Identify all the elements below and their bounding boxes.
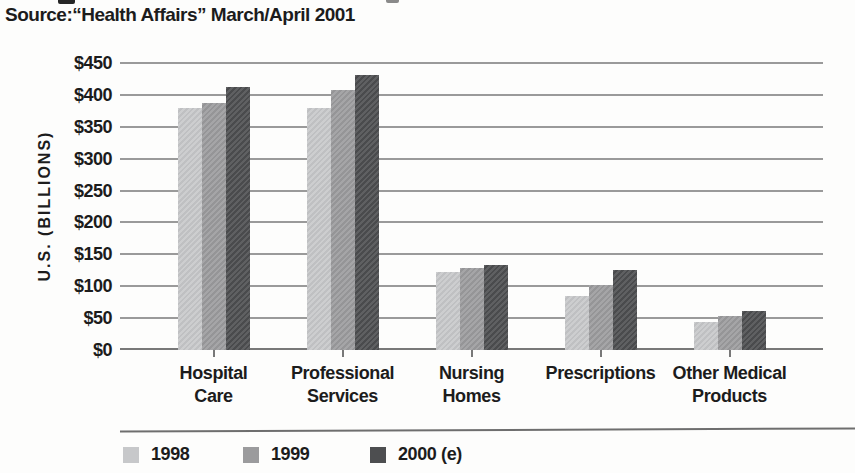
bar-1999-prescriptions bbox=[589, 285, 613, 350]
bar-1998-prescriptions bbox=[565, 296, 589, 350]
y-tick-label-200: $200 bbox=[30, 212, 112, 232]
x-tick bbox=[342, 350, 344, 357]
bar-group-nursing-homes bbox=[407, 63, 536, 350]
bar-2000e-other-medical-products bbox=[742, 311, 766, 351]
legend-label: 2000 (e) bbox=[398, 444, 462, 465]
x-tick-slot bbox=[407, 350, 536, 357]
bars-row bbox=[149, 63, 794, 350]
y-tick-label-250: $250 bbox=[30, 181, 112, 201]
cropped-title-fragment-2 bbox=[386, 0, 399, 3]
y-tick-label-400: $400 bbox=[30, 85, 112, 105]
y-tick-label-150: $150 bbox=[30, 244, 112, 264]
source-caption: Source:“Health Affairs” March/April 2001 bbox=[5, 4, 355, 26]
legend-item-1999: 1999 bbox=[243, 444, 309, 465]
bar-2000e-prescriptions bbox=[613, 270, 637, 350]
bar-1998-hospital-care bbox=[178, 108, 202, 350]
x-tick bbox=[600, 350, 602, 357]
bar-1999-professional-services bbox=[331, 90, 355, 350]
legend-swatch-1999 bbox=[243, 447, 259, 463]
bar-2000e-hospital-care bbox=[226, 87, 250, 350]
y-tick-label-300: $300 bbox=[30, 149, 112, 169]
bar-group-other-medical-products bbox=[665, 63, 794, 350]
bar-1998-nursing-homes bbox=[436, 272, 460, 350]
category-label-other-medical-products: Other Medical Products bbox=[665, 362, 794, 407]
bar-group-professional-services bbox=[278, 63, 407, 350]
bar-1999-nursing-homes bbox=[460, 268, 484, 350]
x-axis-ticks bbox=[149, 350, 794, 357]
legend-item-2000e: 2000 (e) bbox=[370, 444, 462, 465]
y-tick-label-450: $450 bbox=[30, 53, 112, 73]
x-tick-slot bbox=[278, 350, 407, 357]
category-label-prescriptions: Prescriptions bbox=[536, 362, 665, 407]
y-tick-label-0: $0 bbox=[30, 340, 112, 360]
bar-1999-other-medical-products bbox=[718, 316, 742, 350]
y-tick-label-50: $50 bbox=[30, 308, 112, 328]
legend-swatch-1998 bbox=[123, 447, 139, 463]
x-tick bbox=[471, 350, 473, 357]
x-tick-slot bbox=[149, 350, 278, 357]
legend-item-1998: 1998 bbox=[123, 444, 189, 465]
y-tick-label-100: $100 bbox=[30, 276, 112, 296]
x-tick bbox=[213, 350, 215, 357]
legend-divider-line bbox=[120, 427, 855, 432]
category-label-nursing-homes: Nursing Homes bbox=[407, 362, 536, 407]
category-labels: Hospital CareProfessional ServicesNursin… bbox=[149, 362, 794, 407]
legend-label: 1998 bbox=[151, 444, 189, 465]
legend-label: 1999 bbox=[271, 444, 309, 465]
bar-1998-other-medical-products bbox=[694, 322, 718, 350]
x-tick bbox=[729, 350, 731, 357]
legend: 199819992000 (e) bbox=[0, 444, 855, 466]
category-label-hospital-care: Hospital Care bbox=[149, 362, 278, 407]
bar-group-hospital-care bbox=[149, 63, 278, 350]
y-axis-tick-labels: $0$50$100$150$200$250$300$350$400$450 bbox=[30, 63, 112, 350]
category-label-professional-services: Professional Services bbox=[278, 362, 407, 407]
bar-1998-professional-services bbox=[307, 108, 331, 350]
plot-area bbox=[120, 63, 823, 350]
scanned-bar-chart-page: Source:“Health Affairs” March/April 2001… bbox=[0, 0, 855, 473]
legend-swatch-2000e bbox=[370, 447, 386, 463]
bar-2000e-professional-services bbox=[355, 75, 379, 350]
y-tick-label-350: $350 bbox=[30, 117, 112, 137]
bar-2000e-nursing-homes bbox=[484, 265, 508, 351]
x-tick-slot bbox=[536, 350, 665, 357]
x-tick-slot bbox=[665, 350, 794, 357]
bar-1999-hospital-care bbox=[202, 103, 226, 351]
bar-group-prescriptions bbox=[536, 63, 665, 350]
